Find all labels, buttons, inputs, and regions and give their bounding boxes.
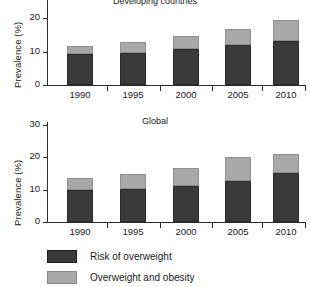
bar-segment-overweight-and-obesity: [173, 168, 199, 186]
bar-segment-overweight-and-obesity: [273, 154, 299, 173]
bar-segment-risk-of-overweight: [120, 189, 146, 222]
bar-segment-overweight-and-obesity: [120, 42, 146, 53]
x-axis-line: [47, 85, 306, 86]
legend-label-1: Overweight and obesity: [90, 272, 195, 283]
bar-segment-risk-of-overweight: [273, 41, 299, 85]
y-axis-tick: [43, 18, 48, 19]
x-axis-line: [47, 222, 306, 223]
y-axis-tick-label: 10: [7, 183, 40, 194]
y-axis-line: [47, 0, 48, 85]
x-axis-tick-label: 2010: [258, 89, 310, 100]
y-axis-tick: [43, 157, 48, 158]
x-axis-tick-label: 2000: [158, 226, 214, 237]
bar-2010: [273, 20, 299, 85]
chart-panel-global: Global Prevalence (%) 010203019901995200…: [0, 110, 310, 242]
panel-title-top: Developing countries: [25, 0, 285, 6]
legend-swatch-dark: [47, 250, 77, 263]
bar-segment-risk-of-overweight: [225, 45, 251, 85]
x-axis-tick-label: 2010: [258, 226, 310, 237]
chart-panel-developing-countries: Developing countries Prevalence (%) 0102…: [0, 0, 310, 110]
x-axis-tick-label: 1995: [105, 89, 161, 100]
bar-segment-risk-of-overweight: [67, 190, 93, 222]
x-axis-tick-label: 2000: [158, 89, 214, 100]
y-axis-tick-label: 20: [7, 150, 40, 161]
y-axis-tick-label: 10: [7, 45, 40, 56]
y-axis-tick: [43, 222, 48, 223]
bar-segment-risk-of-overweight: [120, 53, 146, 85]
bar-segment-risk-of-overweight: [173, 49, 199, 85]
bar-segment-overweight-and-obesity: [67, 46, 93, 54]
stacked-bar-figure: Developing countries Prevalence (%) 0102…: [0, 0, 310, 287]
bar-segment-overweight-and-obesity: [173, 36, 199, 49]
bar-segment-risk-of-overweight: [67, 54, 93, 85]
y-axis-tick-label: 20: [7, 11, 40, 22]
legend-label-0: Risk of overweight: [90, 251, 172, 262]
bar-2000: [173, 168, 199, 222]
x-axis-tick-label: 1990: [52, 226, 108, 237]
bar-1990: [67, 46, 93, 85]
y-axis-tick: [43, 52, 48, 53]
bar-2005: [225, 29, 251, 85]
y-axis-tick: [43, 190, 48, 191]
bar-2000: [173, 36, 199, 85]
x-axis-tick-label: 1995: [105, 226, 161, 237]
legend-swatch-light: [47, 271, 77, 284]
y-axis-tick: [43, 125, 48, 126]
bar-segment-risk-of-overweight: [225, 181, 251, 222]
bar-segment-risk-of-overweight: [173, 186, 199, 222]
x-axis-tick-label: 1990: [52, 89, 108, 100]
bar-segment-overweight-and-obesity: [225, 29, 251, 45]
bar-segment-overweight-and-obesity: [273, 20, 299, 42]
x-axis-tick: [305, 86, 306, 91]
y-axis-tick-label: 0: [7, 215, 40, 226]
x-axis-tick: [305, 223, 306, 228]
legend-item-risk-of-overweight: Risk of overweight: [47, 248, 172, 264]
bar-segment-overweight-and-obesity: [67, 178, 93, 190]
y-axis-tick-label: 30: [7, 118, 40, 129]
bar-segment-overweight-and-obesity: [120, 174, 146, 188]
panel-title-bottom: Global: [25, 116, 285, 126]
bar-2005: [225, 157, 251, 222]
bar-1995: [120, 174, 146, 222]
y-axis-tick-label: 0: [7, 78, 40, 89]
bar-segment-risk-of-overweight: [273, 173, 299, 222]
bar-1990: [67, 178, 93, 222]
chart-legend: Risk of overweight Overweight and obesit…: [0, 244, 310, 287]
y-axis-tick: [43, 85, 48, 86]
bar-2010: [273, 154, 299, 222]
legend-item-overweight-and-obesity: Overweight and obesity: [47, 269, 195, 285]
bar-segment-overweight-and-obesity: [225, 157, 251, 180]
bar-1995: [120, 42, 146, 85]
y-axis-line: [47, 122, 48, 222]
